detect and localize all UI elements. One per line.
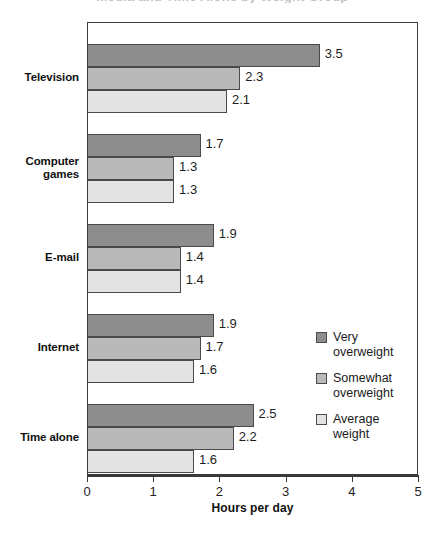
bar-value-label: 1.7 (206, 339, 224, 354)
legend-swatch-icon-somewhat-overweight (316, 373, 327, 384)
bar[interactable] (88, 427, 234, 450)
bar-value-label: 2.5 (259, 406, 277, 421)
x-axis-tick (418, 475, 419, 482)
legend-label-line-1: Very (333, 330, 443, 345)
bar[interactable] (88, 247, 181, 270)
bar[interactable] (88, 314, 214, 337)
bar-value-label: 1.7 (206, 136, 224, 151)
chart-figure: Media and Time Alone by Weight Group 3.5… (0, 0, 445, 533)
bar[interactable] (88, 450, 194, 473)
x-axis-tick (153, 475, 154, 482)
category-label: Computergames (0, 155, 79, 181)
x-axis-tick (352, 475, 353, 482)
legend-item-average-weight[interactable]: Average weight (316, 412, 443, 441)
category-label-line: Internet (0, 341, 79, 354)
category-label-line: games (0, 168, 79, 181)
bar[interactable] (88, 270, 181, 293)
bar-value-label: 1.4 (186, 272, 204, 287)
bar-value-label: 3.5 (325, 46, 343, 61)
chart-title-cropped: Media and Time Alone by Weight Group (0, 0, 445, 3)
legend-item-very-overweight[interactable]: Very overweight (316, 330, 443, 359)
legend-label-line-2: overweight (333, 345, 443, 360)
bar[interactable] (88, 90, 227, 113)
x-axis-tick-label: 5 (403, 484, 433, 499)
x-axis-tick-label: 1 (138, 484, 168, 499)
x-axis-tick-label: 0 (72, 484, 102, 499)
category-label: E-mail (0, 251, 79, 264)
legend-label-line-2: overweight (333, 386, 443, 401)
x-axis-tick-label: 4 (337, 484, 367, 499)
legend-swatch-icon-very-overweight (316, 332, 327, 343)
bar-value-label: 2.1 (232, 92, 250, 107)
bar-value-label: 1.3 (179, 159, 197, 174)
bar-value-label: 1.9 (219, 316, 237, 331)
bar[interactable] (88, 224, 214, 247)
bar[interactable] (88, 337, 201, 360)
bar-row: 1.9 (88, 224, 417, 247)
bar-row: 1.3 (88, 157, 417, 180)
bar[interactable] (88, 180, 174, 203)
bar-row: 2.1 (88, 90, 417, 113)
bar-group: 1.71.31.3 (88, 134, 417, 203)
bar[interactable] (88, 404, 254, 427)
bar-row: 1.4 (88, 247, 417, 270)
bar[interactable] (88, 360, 194, 383)
bar-row: 3.5 (88, 44, 417, 67)
chart-legend: Very overweight Somewhat overweight Aver… (316, 330, 443, 453)
x-axis-tick (219, 475, 220, 482)
x-axis-line (87, 475, 418, 477)
category-label: Time alone (0, 431, 79, 444)
bar-row: 1.3 (88, 180, 417, 203)
bar[interactable] (88, 67, 240, 90)
category-label-line: E-mail (0, 251, 79, 264)
bar-row: 2.3 (88, 67, 417, 90)
legend-label-line-1: Average (333, 412, 443, 427)
bar-group: 1.91.41.4 (88, 224, 417, 293)
category-label-line: Time alone (0, 431, 79, 444)
bar-value-label: 1.3 (179, 182, 197, 197)
bar[interactable] (88, 44, 320, 67)
bar-value-label: 2.2 (239, 429, 257, 444)
legend-swatch-icon-average-weight (316, 414, 327, 425)
bar-value-label: 2.3 (245, 69, 263, 84)
bar-value-label: 1.6 (199, 452, 217, 467)
x-axis-tick-label: 3 (271, 484, 301, 499)
x-axis-tick (87, 475, 88, 482)
category-label-line: Television (0, 71, 79, 84)
legend-item-somewhat-overweight[interactable]: Somewhat overweight (316, 371, 443, 400)
bar-value-label: 1.9 (219, 226, 237, 241)
x-axis-tick-label: 2 (204, 484, 234, 499)
bar[interactable] (88, 134, 201, 157)
bar-value-label: 1.4 (186, 249, 204, 264)
legend-label-line-1: Somewhat (333, 371, 443, 386)
bar[interactable] (88, 157, 174, 180)
bar-row: 1.6 (88, 450, 417, 473)
x-axis-tick (286, 475, 287, 482)
category-label-line: Computer (0, 155, 79, 168)
bar-row: 1.7 (88, 134, 417, 157)
x-axis-title: Hours per day (87, 501, 418, 515)
legend-label-line-2: weight (333, 427, 443, 442)
bar-value-label: 1.6 (199, 362, 217, 377)
category-label: Internet (0, 341, 79, 354)
bar-row: 1.4 (88, 270, 417, 293)
bar-group: 3.52.32.1 (88, 44, 417, 113)
category-label: Television (0, 71, 79, 84)
